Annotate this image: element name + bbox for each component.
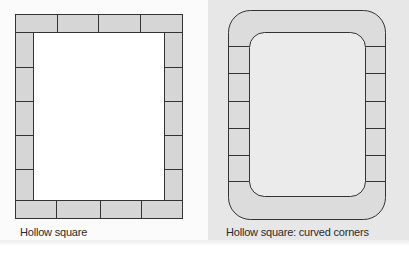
- caption-hollow-square: Hollow square: [20, 226, 87, 238]
- diagram-canvas: [0, 0, 409, 255]
- hollow-interior: [34, 33, 165, 201]
- brick: [165, 136, 183, 170]
- brick: [16, 136, 34, 170]
- brick: [16, 15, 58, 33]
- inner-rounded-hollow: [250, 33, 366, 197]
- brick: [58, 15, 99, 33]
- caption-hollow-square-curved: Hollow square: curved corners: [226, 226, 369, 238]
- brick: [165, 102, 183, 136]
- brick: [16, 170, 34, 201]
- brick: [165, 68, 183, 102]
- brick: [57, 201, 101, 219]
- brick: [165, 170, 183, 201]
- brick: [16, 201, 57, 219]
- hollow-square-curved-diagram: [229, 11, 386, 220]
- brick: [16, 68, 34, 102]
- brick: [99, 15, 141, 33]
- brick: [101, 201, 142, 219]
- brick: [141, 15, 183, 33]
- hollow-square-diagram: [16, 15, 183, 219]
- brick: [16, 102, 34, 136]
- brick: [165, 33, 183, 68]
- brick: [142, 201, 183, 219]
- brick: [16, 33, 34, 68]
